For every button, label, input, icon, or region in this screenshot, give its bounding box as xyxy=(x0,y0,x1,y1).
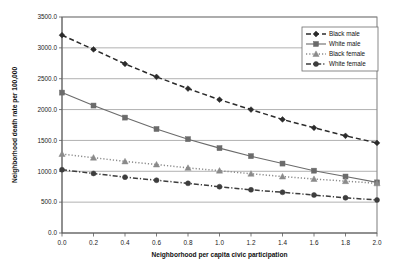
legend-label: Black female xyxy=(329,50,366,57)
legend: Black maleWhite maleBlack femaleWhite fe… xyxy=(302,27,378,71)
data-point-circle xyxy=(280,190,285,195)
data-point-square xyxy=(312,168,317,173)
data-point-square xyxy=(217,146,222,151)
legend-label: White female xyxy=(329,60,366,67)
x-tick-label: 1.0 xyxy=(215,239,224,246)
data-point-circle xyxy=(186,181,191,186)
data-point-square xyxy=(60,90,65,95)
x-tick-label: 1.2 xyxy=(247,239,256,246)
y-axis-title: Neighborhood death rate per 100,000 xyxy=(11,67,19,183)
x-tick-label: 0.0 xyxy=(58,239,67,246)
data-point-square xyxy=(280,161,285,166)
x-tick-label: 1.8 xyxy=(341,239,350,246)
x-tick-label: 1.4 xyxy=(278,239,287,246)
data-point-circle xyxy=(343,195,348,200)
data-point-square xyxy=(154,127,159,132)
data-point-square xyxy=(249,154,254,159)
x-tick-label: 2.0 xyxy=(373,239,382,246)
y-tick-label: 3000.0 xyxy=(37,44,57,51)
x-tick-label: 0.4 xyxy=(121,239,130,246)
x-axis: 0.00.20.40.60.81.01.21.41.61.82.0 xyxy=(58,233,382,246)
data-point-circle xyxy=(312,193,317,198)
data-point-square xyxy=(186,137,191,142)
y-tick-label: 500.0 xyxy=(41,198,57,205)
data-point-square xyxy=(91,103,96,108)
data-point-circle xyxy=(91,171,96,176)
x-axis-title: Neighborhood per capita civic participat… xyxy=(152,251,288,259)
y-tick-label: 1500.0 xyxy=(37,137,57,144)
chart-container: 0.0500.01000.01500.02000.02500.03000.035… xyxy=(0,0,405,277)
x-tick-label: 1.6 xyxy=(310,239,319,246)
x-tick-label: 0.8 xyxy=(184,239,193,246)
data-point-circle xyxy=(314,62,319,67)
data-point-square xyxy=(123,115,128,120)
y-tick-label: 2500.0 xyxy=(37,75,57,82)
legend-label: Black male xyxy=(329,30,360,37)
x-tick-label: 0.2 xyxy=(89,239,98,246)
data-point-circle xyxy=(217,184,222,189)
line-chart: 0.0500.01000.01500.02000.02500.03000.035… xyxy=(0,0,405,277)
data-point-circle xyxy=(375,197,380,202)
x-tick-label: 0.6 xyxy=(152,239,161,246)
data-point-circle xyxy=(60,167,65,172)
y-axis: 0.0500.01000.01500.02000.02500.03000.035… xyxy=(37,13,62,236)
data-point-circle xyxy=(123,175,128,180)
y-tick-label: 0.0 xyxy=(48,229,57,236)
y-tick-label: 3500.0 xyxy=(37,13,57,20)
y-tick-label: 1000.0 xyxy=(37,168,57,175)
data-point-circle xyxy=(249,187,254,192)
data-point-circle xyxy=(154,178,159,183)
y-tick-label: 2000.0 xyxy=(37,106,57,113)
data-point-square xyxy=(314,42,319,47)
legend-label: White male xyxy=(329,40,361,47)
